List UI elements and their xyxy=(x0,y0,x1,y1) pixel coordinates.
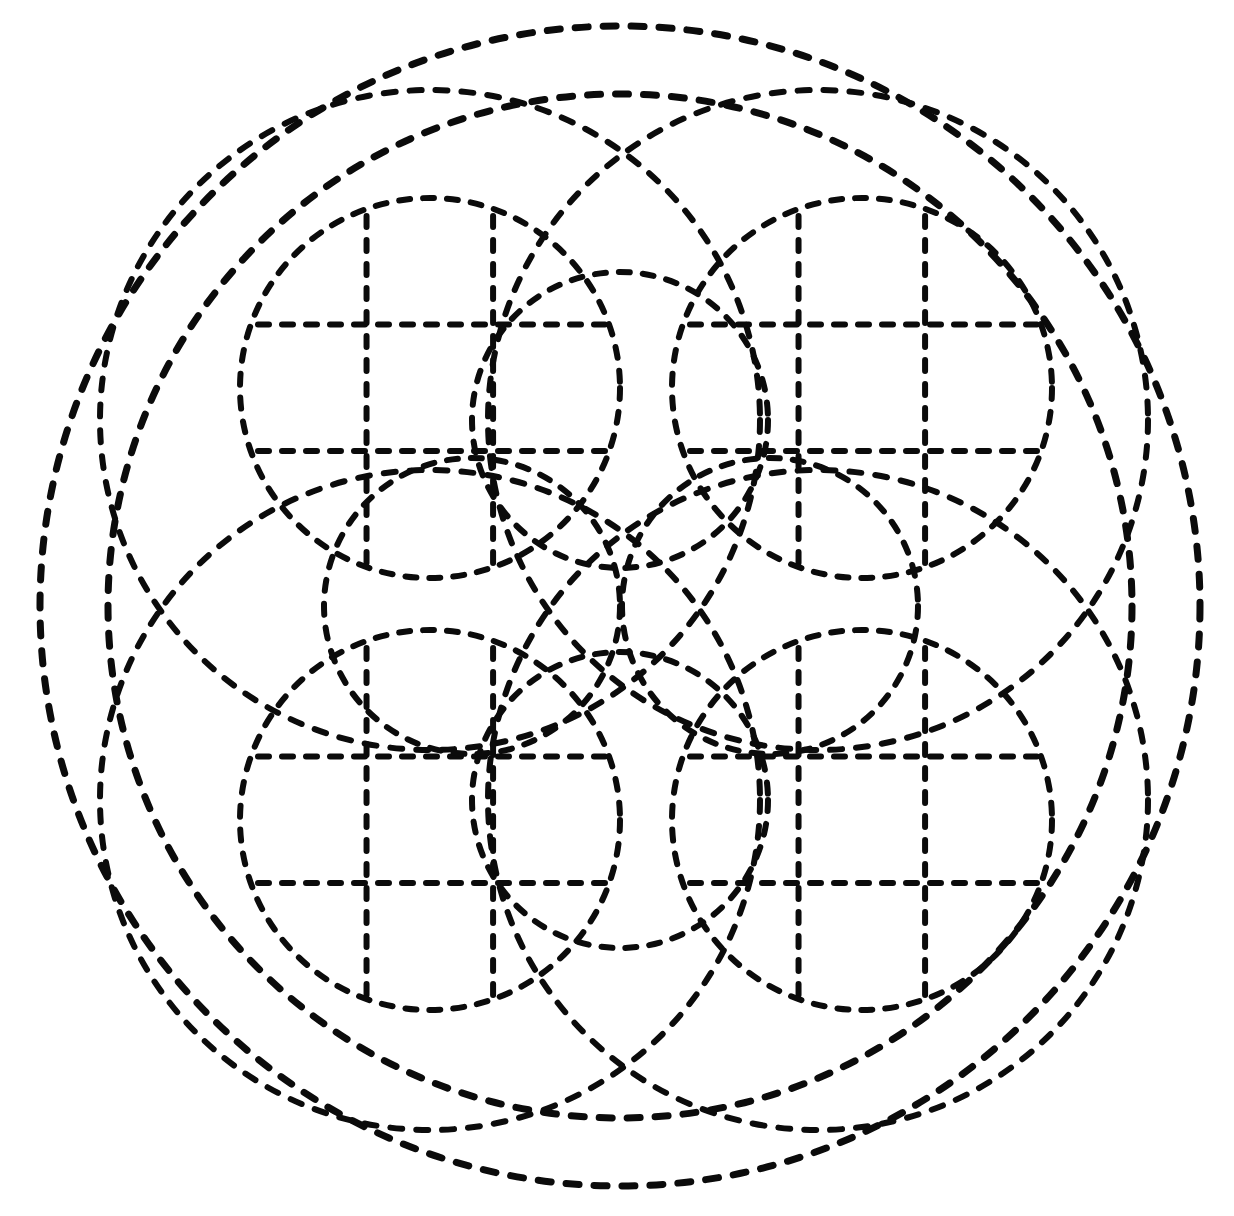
figure-root: Dashed-line geometric rosette Hand-drawn… xyxy=(0,0,1234,1216)
geometric-figure-svg xyxy=(0,0,1234,1216)
